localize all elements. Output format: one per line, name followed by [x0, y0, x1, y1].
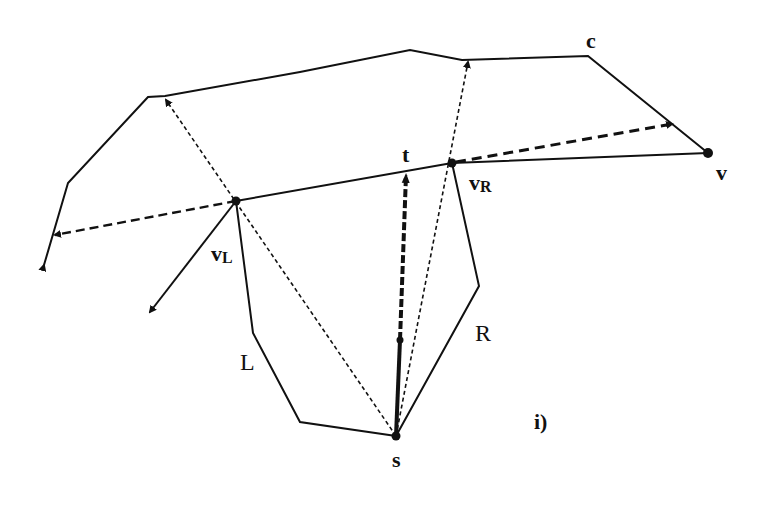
point-mid: [397, 337, 404, 344]
label-R: R: [475, 321, 491, 345]
panel-label: i): [534, 411, 547, 433]
point-s: [392, 432, 401, 441]
diagram-svg: [0, 0, 763, 509]
label-L: L: [240, 350, 255, 374]
s-to-upper-right-dotted: [396, 62, 468, 436]
right-chain-R: [396, 163, 479, 436]
label-vr: vR: [469, 172, 491, 194]
point-vr: [448, 159, 457, 168]
point-vl: [232, 197, 241, 206]
label-c: c: [586, 30, 596, 52]
label-s: s: [392, 449, 401, 471]
vl-dashed-left: [55, 201, 236, 235]
diagram-canvas: c t v vR vL L R s i): [0, 0, 763, 509]
label-v: v: [716, 162, 727, 184]
point-v: [703, 148, 713, 158]
label-t: t: [402, 144, 409, 166]
label-vl: vL: [211, 243, 233, 265]
s-t-dashed: [400, 175, 406, 340]
